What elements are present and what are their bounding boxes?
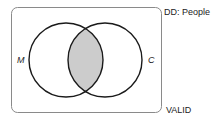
set-m-label: M xyxy=(17,56,25,65)
verdict-label: VALID xyxy=(166,106,191,115)
set-c-label: C xyxy=(148,56,155,65)
universe-label: DD: People xyxy=(164,8,210,17)
venn-diagram xyxy=(0,0,219,122)
